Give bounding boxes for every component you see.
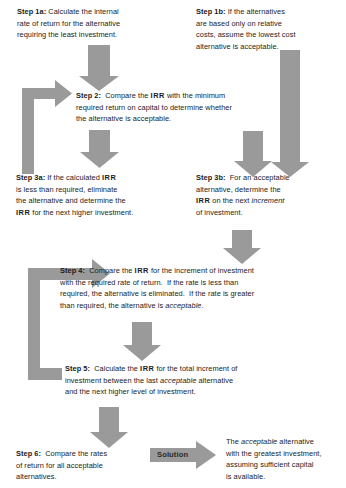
step-5-label: Step 5: (65, 364, 90, 373)
arrow-step1a-to-step2 (79, 45, 119, 91)
step-1b-label: Step 1b: (196, 7, 226, 16)
step-1a-label: Step 1a: (17, 7, 46, 16)
step-5-emphasis: acceptable (160, 376, 196, 385)
step-3b-part2: on the next (210, 196, 251, 205)
arrow-step2-to-step3b (234, 131, 272, 177)
arrow-step4-to-step5 (123, 322, 161, 361)
step-3a-label: Step 3a: (16, 173, 45, 182)
arrow-step3b-to-step4 (223, 230, 261, 264)
flowchart-arrows (0, 0, 346, 488)
solution-label: Solution (157, 450, 188, 459)
step-5-part1: Calculate the (90, 364, 140, 373)
step-3a-part2: is less than required, eliminate the alt… (16, 185, 126, 206)
step-5-irr: IRR (140, 364, 154, 373)
step-2-irr: IRR (151, 91, 165, 100)
step-2-label: Step 2: (76, 91, 101, 100)
arrow-step5-to-step6 (90, 407, 128, 448)
arrow-step2-to-step3a (80, 130, 119, 168)
step-3a-part1: If the calculated (45, 173, 102, 182)
solution-part1: The (226, 437, 241, 446)
arrow-step3a-loopback-to-step2 (22, 80, 72, 174)
step-3a-irr-1: IRR (102, 173, 116, 182)
solution-emphasis: acceptable (241, 437, 277, 446)
step-4-part3: . (201, 301, 203, 310)
step-4-text: Step 4: Compare the IRR for the incremen… (60, 265, 346, 311)
step-1a-text: Step 1a: Calculate the internal rate of … (17, 6, 185, 41)
step-2-part1: Compare the (101, 91, 151, 100)
step-3a-irr-2: IRR (16, 208, 30, 217)
irr-flowchart: Step 1a: Calculate the internal rate of … (0, 0, 346, 488)
step-4-part1: Compare the (85, 266, 135, 275)
step-4-label: Step 4: (60, 266, 85, 275)
step-6-text: Step 6: Compare the rates of return for … (16, 448, 156, 483)
step-3a-text: Step 3a: If the calculated IRR is less t… (16, 172, 196, 218)
step-2-text: Step 2: Compare the IRR with the minimum… (76, 90, 332, 125)
step-4-emphasis: acceptable (165, 301, 201, 310)
step-6-label: Step 6: (16, 449, 41, 458)
step-4-irr: IRR (135, 266, 149, 275)
solution-outcome-text: The acceptable alternative with the grea… (226, 436, 346, 482)
step-5-text: Step 5: Calculate the IRR for the total … (65, 363, 335, 398)
step-3b-irr: IRR (196, 196, 210, 205)
step-3b-part3: of investment. (196, 208, 243, 217)
step-3b-label: Step 3b: (196, 173, 226, 182)
step-1b-text: Step 1b: If the alternatives are based o… (196, 6, 342, 52)
step-3a-part3: for the next higher investment. (30, 208, 133, 217)
step-3b-emphasis: increment (252, 196, 285, 205)
step-3b-text: Step 3b: For an acceptable alternative, … (196, 172, 342, 218)
